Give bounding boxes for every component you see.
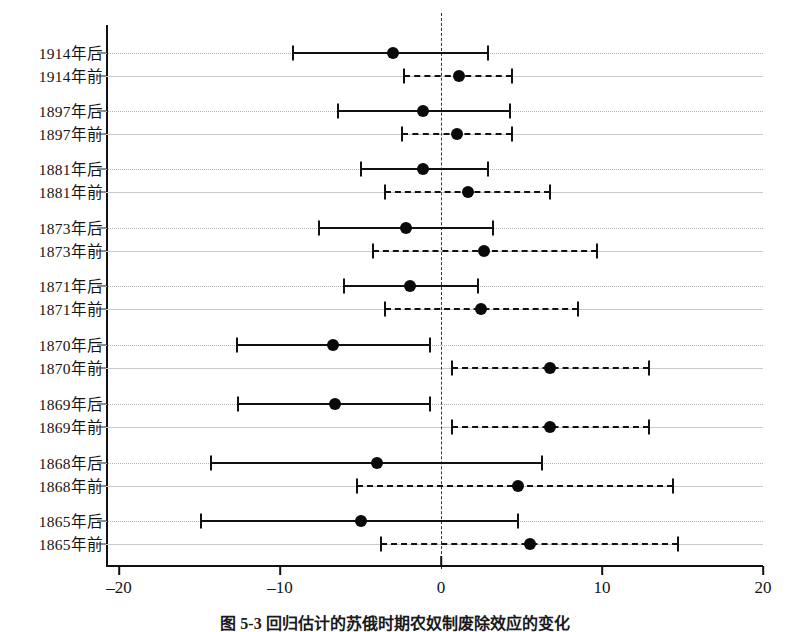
y-axis-label: 1868年后 <box>3 456 103 471</box>
confidence-interval-row <box>106 242 763 260</box>
confidence-interval-row <box>106 454 763 472</box>
upper-bound-cap <box>429 397 431 412</box>
y-axis-label: 1897年前 <box>3 127 103 142</box>
point-estimate-marker <box>453 70 465 82</box>
point-estimate-marker <box>475 303 487 315</box>
point-estimate-marker <box>544 421 556 433</box>
upper-bound-cap <box>492 221 494 236</box>
y-axis-tick <box>97 53 106 54</box>
y-axis-tick <box>97 521 106 522</box>
y-axis-label: 1881年后 <box>3 162 103 177</box>
confidence-interval-row <box>106 477 763 495</box>
confidence-interval-row <box>106 336 763 354</box>
point-estimate-marker <box>371 457 383 469</box>
y-axis-tick <box>97 286 106 287</box>
point-estimate-marker <box>524 538 536 550</box>
upper-bound-cap <box>517 514 519 529</box>
y-axis-label: 1869年后 <box>3 397 103 412</box>
x-axis-tick-label: 10 <box>594 579 611 597</box>
point-estimate-marker <box>387 47 399 59</box>
y-axis-label: 1914年前 <box>3 69 103 84</box>
y-axis-label: 1870年前 <box>3 361 103 376</box>
x-axis-line <box>106 565 763 567</box>
y-axis-tick <box>97 169 106 170</box>
lower-bound-cap <box>200 514 202 529</box>
y-axis-label-group: 1914年后1914年前1897年后1897年前1881年后1881年前1873… <box>0 0 103 632</box>
y-axis-label: 1865年前 <box>3 537 103 552</box>
upper-bound-cap <box>511 127 513 142</box>
y-axis-tick <box>97 228 106 229</box>
confidence-interval-row <box>106 359 763 377</box>
x-axis-tick-label: –20 <box>106 579 132 597</box>
lower-bound-cap <box>403 69 405 84</box>
confidence-interval-row <box>106 300 763 318</box>
lower-bound-cap <box>343 279 345 294</box>
upper-bound-cap <box>509 104 511 119</box>
x-axis-tick <box>762 566 764 575</box>
y-axis-tick <box>97 427 106 428</box>
lower-bound-cap <box>292 46 294 61</box>
x-axis-tick-label: 20 <box>755 579 772 597</box>
point-estimate-marker <box>404 280 416 292</box>
point-estimate-marker <box>355 515 367 527</box>
confidence-interval-row <box>106 277 763 295</box>
lower-bound-cap <box>360 162 362 177</box>
point-estimate-marker <box>417 163 429 175</box>
upper-bound-cap <box>477 279 479 294</box>
point-estimate-marker <box>512 480 524 492</box>
y-axis-tick <box>97 192 106 193</box>
y-axis-label: 1914年后 <box>3 46 103 61</box>
y-axis-tick <box>97 368 106 369</box>
x-axis-tick-label: –10 <box>267 579 293 597</box>
x-axis-tick-label: 0 <box>437 579 446 597</box>
point-estimate-marker <box>451 128 463 140</box>
confidence-interval-row <box>106 125 763 143</box>
x-axis-tick <box>440 556 442 567</box>
lower-bound-cap <box>236 338 238 353</box>
lower-bound-cap <box>380 537 382 552</box>
confidence-interval-row <box>106 102 763 120</box>
y-axis-label: 1869年前 <box>3 420 103 435</box>
upper-bound-cap <box>487 46 489 61</box>
upper-bound-cap <box>549 185 551 200</box>
confidence-interval-row <box>106 183 763 201</box>
upper-bound-cap <box>648 361 650 376</box>
y-axis-tick <box>97 486 106 487</box>
y-axis-tick <box>97 111 106 112</box>
x-axis-tick <box>118 566 120 575</box>
point-estimate-marker <box>544 362 556 374</box>
point-estimate-marker <box>478 245 490 257</box>
upper-bound-cap <box>596 244 598 259</box>
upper-bound-cap <box>429 338 431 353</box>
y-axis-label: 1897年后 <box>3 104 103 119</box>
y-axis-label: 1870年后 <box>3 338 103 353</box>
lower-bound-cap <box>356 479 358 494</box>
y-axis-tick <box>97 76 106 77</box>
y-axis-tick <box>97 404 106 405</box>
upper-bound-cap <box>672 479 674 494</box>
y-axis-tick <box>97 309 106 310</box>
upper-bound-cap <box>487 162 489 177</box>
confidence-interval-row <box>106 219 763 237</box>
y-axis-label: 1871年后 <box>3 279 103 294</box>
confidence-interval-row <box>106 535 763 553</box>
lower-bound-cap <box>372 244 374 259</box>
confidence-interval-row <box>106 44 763 62</box>
y-axis-tick <box>97 134 106 135</box>
upper-bound-cap <box>541 456 543 471</box>
lower-bound-cap <box>210 456 212 471</box>
x-axis-tick <box>601 566 603 575</box>
confidence-interval-row <box>106 67 763 85</box>
confidence-interval-row <box>106 160 763 178</box>
y-axis-label: 1881年前 <box>3 185 103 200</box>
point-estimate-marker <box>329 398 341 410</box>
y-axis-tick <box>97 345 106 346</box>
lower-bound-cap <box>451 420 453 435</box>
y-axis-label: 1871年前 <box>3 302 103 317</box>
x-axis-tick <box>279 566 281 575</box>
confidence-interval-row <box>106 395 763 413</box>
y-axis-tick <box>97 463 106 464</box>
upper-bound-cap <box>677 537 679 552</box>
upper-bound-cap <box>577 302 579 317</box>
y-axis-label: 1865年后 <box>3 514 103 529</box>
